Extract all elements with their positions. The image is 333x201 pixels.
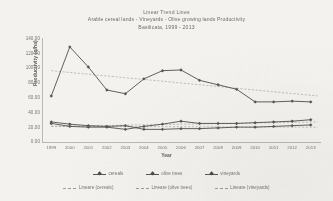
x-tick-label: 2004	[135, 145, 153, 150]
legend-label: Lineare (olive trees)	[151, 185, 192, 190]
legend-label: olive trees	[161, 171, 182, 176]
x-tick-label: 2009	[228, 145, 246, 150]
x-axis-title: Year	[0, 152, 333, 158]
legend-dashed-line-icon	[215, 188, 228, 189]
data-point-marker	[142, 128, 145, 131]
x-tick-label: 2001	[79, 145, 97, 150]
data-point-marker	[235, 125, 238, 128]
data-point-marker	[161, 69, 164, 72]
trendline-lineare-cereals-	[51, 71, 317, 96]
x-tick-label: 2012	[283, 145, 301, 150]
x-tick-label: 1999	[42, 145, 60, 150]
chart-page: Linear Trend Lines Arable cereal lands -…	[0, 0, 333, 201]
x-tick-label: 2002	[98, 145, 116, 150]
legend-label: vineyards	[220, 171, 240, 176]
data-point-marker	[253, 121, 256, 124]
data-point-marker	[142, 125, 145, 128]
x-tick-label: 2007	[191, 145, 209, 150]
data-point-marker	[235, 122, 238, 125]
legend-dashed-line-icon	[136, 188, 149, 189]
data-point-marker	[179, 120, 182, 123]
data-point-marker	[161, 122, 164, 125]
data-point-marker	[291, 99, 294, 102]
data-point-marker	[309, 118, 312, 121]
legend-item-vineyards[interactable]: vineyards	[205, 171, 240, 176]
data-point-marker	[272, 100, 275, 103]
data-point-marker	[179, 127, 182, 130]
data-point-marker	[50, 94, 53, 97]
legend-trendlines: Lineare (cereals) Lineare (olive trees) …	[0, 178, 333, 196]
data-point-marker	[216, 122, 219, 125]
legend-label: cereals	[108, 171, 123, 176]
x-tick-label: 2005	[153, 145, 171, 150]
x-tick-label: 2008	[209, 145, 227, 150]
legend-item-trend-olive-trees[interactable]: Lineare (olive trees)	[136, 185, 192, 190]
legend-item-cereals[interactable]: cereals	[93, 171, 123, 176]
legend-marker-icon	[93, 174, 106, 175]
x-tick-label: 2013	[302, 145, 320, 150]
data-point-marker	[272, 125, 275, 128]
legend-marker-icon	[205, 174, 218, 175]
legend-item-olive-trees[interactable]: olive trees	[146, 171, 183, 176]
legend-marker-icon	[146, 174, 159, 175]
data-point-marker	[309, 123, 312, 126]
legend-item-trend-cereals[interactable]: Lineare (cereals)	[63, 185, 113, 190]
data-point-marker	[216, 83, 219, 86]
data-point-marker	[309, 100, 312, 103]
x-tick-label: 2011	[265, 145, 283, 150]
data-point-marker	[161, 128, 164, 131]
data-point-marker	[253, 125, 256, 128]
legend-item-trend-vineyards[interactable]: Lineare (vineyards)	[215, 185, 270, 190]
x-tick-label: 2003	[116, 145, 134, 150]
x-tick-label: 2010	[246, 145, 264, 150]
legend-label: Lineare (cereals)	[79, 185, 114, 190]
legend-dashed-line-icon	[63, 188, 76, 189]
data-point-marker	[124, 128, 127, 131]
data-point-marker	[272, 120, 275, 123]
data-point-marker	[68, 125, 71, 128]
legend-label: Lineare (vineyards)	[230, 185, 269, 190]
x-tick-label: 2000	[61, 145, 79, 150]
x-tick-label: 2006	[172, 145, 190, 150]
data-point-marker	[198, 122, 201, 125]
data-point-marker	[198, 127, 201, 130]
